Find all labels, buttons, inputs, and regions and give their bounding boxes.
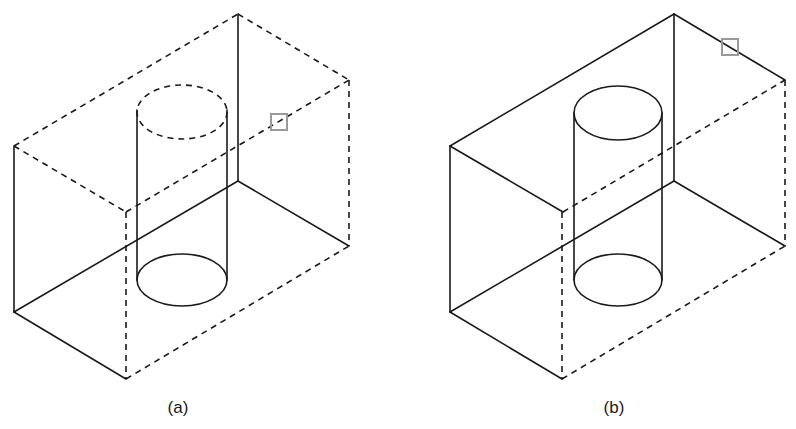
a-cylinder-bottom-ellipse [137,254,227,306]
figure-b-drawing [450,14,785,379]
b-left-bottom-edge [450,312,562,379]
b-cylinder-top-ellipse [574,86,662,140]
a-top-left-edge [14,146,126,212]
a-cylinder-top-ellipse [137,85,227,139]
a-left-bottom-edge [14,312,126,379]
b-cylinder-bottom-ellipse [574,254,662,306]
a-top-right-edge [238,14,349,80]
caption-b: (b) [584,398,644,418]
b-top-right-edge [674,14,785,80]
figure-a-drawing [14,14,349,379]
figures-canvas [0,0,796,429]
a-front-bottom-edge [126,246,349,379]
b-front-bottom-edge [562,246,785,379]
b-top-back-edge [450,14,674,146]
a-top-back-edge [14,14,238,146]
a-right-bottom-edge [238,181,349,246]
b-right-bottom-edge [674,181,785,246]
b-top-left-edge [450,146,563,212]
caption-a: (a) [148,398,208,418]
